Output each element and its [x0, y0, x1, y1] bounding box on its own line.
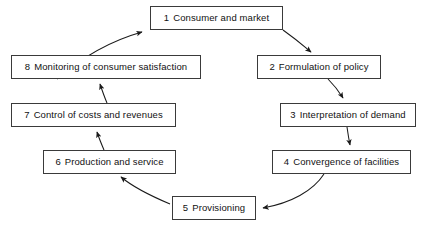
node-1-label: Consumer and market	[173, 13, 269, 23]
node-8-label: Monitoring of consumer satisfaction	[34, 62, 187, 72]
node-7-number: 7	[24, 110, 29, 120]
node-3-interpretation-of-demand[interactable]: 3 Interpretation of demand	[280, 103, 416, 127]
node-1-number: 1	[164, 13, 169, 23]
node-6-production-and-service[interactable]: 6 Production and service	[43, 150, 176, 174]
arrow-4-to-5	[263, 174, 324, 208]
node-8-number: 8	[25, 62, 30, 72]
diagram-canvas: 1 Consumer and market 2 Formulation of p…	[0, 0, 427, 233]
node-6-label: Production and service	[65, 157, 164, 167]
arrow-1-to-2	[283, 30, 311, 52]
node-5-number: 5	[183, 203, 188, 213]
node-3-number: 3	[290, 110, 295, 120]
figure-caption	[9, 224, 19, 233]
arrow-7-to-8	[100, 84, 107, 103]
node-5-provisioning[interactable]: 5 Provisioning	[172, 196, 256, 220]
node-7-control-of-costs-and-revenues[interactable]: 7 Control of costs and revenues	[11, 103, 176, 127]
node-8-monitoring-of-consumer-satisfaction[interactable]: 8 Monitoring of consumer satisfaction	[11, 55, 201, 79]
node-1-consumer-and-market[interactable]: 1 Consumer and market	[150, 6, 283, 30]
node-3-label: Interpretation of demand	[300, 110, 406, 120]
node-4-number: 4	[284, 157, 289, 167]
arrow-3-to-4	[347, 127, 350, 145]
arrow-5-to-6	[121, 177, 170, 204]
node-2-label: Formulation of policy	[279, 62, 369, 72]
node-4-label: Convergence of facilities	[293, 157, 399, 167]
node-4-convergence-of-facilities[interactable]: 4 Convergence of facilities	[272, 150, 411, 174]
node-6-number: 6	[55, 157, 60, 167]
node-2-formulation-of-policy[interactable]: 2 Formulation of policy	[257, 55, 381, 79]
node-5-label: Provisioning	[192, 203, 245, 213]
node-7-label: Control of costs and revenues	[34, 110, 163, 120]
arrow-2-to-3	[328, 79, 343, 98]
arrow-6-to-7	[97, 132, 104, 150]
node-2-number: 2	[269, 62, 274, 72]
